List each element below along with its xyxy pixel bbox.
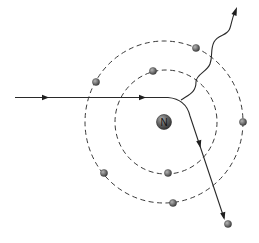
photon-arrow-icon [232,7,238,16]
electron [92,78,99,85]
scattered-arrow-icon [220,212,225,220]
nucleus: N [157,115,172,130]
nucleus-label: N [160,117,167,128]
electron [192,44,199,51]
atom-scattering-diagram: N [0,0,259,243]
emitted-photon-wave [181,12,235,100]
incident-arrow-icon [42,95,49,100]
incident-arrow-icon [139,95,146,100]
electron [239,118,246,125]
electron [224,220,231,227]
incident-particle-path [15,98,224,219]
electron [149,67,156,74]
electrons [92,44,246,227]
electron [164,169,171,176]
scattered-arrow-icon [196,140,201,148]
electron [100,169,107,176]
electron [169,199,176,206]
